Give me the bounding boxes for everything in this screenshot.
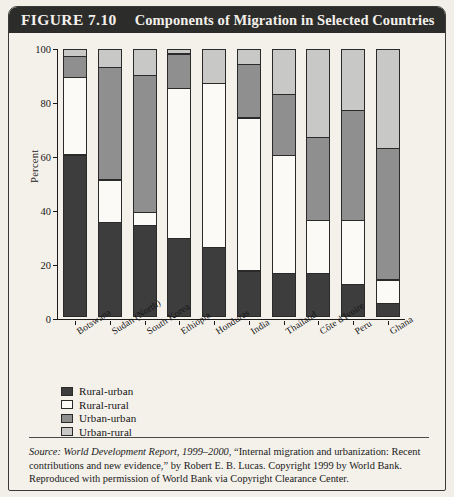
figure-banner: FIGURE 7.10 Components of Migration in S… — [9, 7, 446, 33]
x-tick-mark — [75, 321, 76, 325]
legend-swatch — [61, 414, 73, 423]
x-tick-mark — [179, 321, 180, 325]
bar-slot — [232, 49, 267, 319]
source-prefix: Source: — [29, 446, 61, 457]
x-label-slot: Ghana — [370, 321, 405, 381]
figure-page: FIGURE 7.10 Components of Migration in S… — [0, 0, 454, 497]
stacked-bar[interactable] — [167, 49, 191, 319]
x-label-slot: Botswana — [58, 321, 93, 381]
bar-segment — [237, 64, 261, 118]
bar-slot — [301, 49, 336, 319]
bar-segment — [63, 56, 87, 78]
bar-segment — [272, 273, 296, 316]
stacked-bar[interactable] — [341, 49, 365, 319]
bar-slot — [266, 49, 301, 319]
figure-frame: FIGURE 7.10 Components of Migration in S… — [8, 6, 446, 491]
legend-label: Urban-urban — [79, 412, 136, 424]
bar-segment — [306, 220, 330, 274]
y-tick-label: 80 — [29, 98, 51, 109]
bar-slot — [162, 49, 197, 319]
x-tick-mark — [284, 321, 285, 325]
chart-plot-area: Percent 020406080100 BotswanaSudan (Nort… — [9, 33, 446, 491]
bar-segment — [202, 49, 226, 84]
bar-slot — [58, 49, 93, 319]
y-tick-mark — [53, 319, 57, 320]
x-label-slot: South Korea — [127, 321, 162, 381]
bar-segment — [376, 49, 400, 149]
legend-item[interactable]: Urban-rural — [61, 426, 136, 438]
stacked-bar[interactable] — [202, 49, 226, 319]
legend-label: Rural-urban — [79, 385, 133, 397]
bar-segment — [202, 247, 226, 317]
bar-segment — [272, 94, 296, 156]
x-tick-mark — [249, 321, 250, 325]
bar-segment — [167, 88, 191, 239]
x-label-slot: Thailand — [266, 321, 301, 381]
x-label-slot: Honduras — [197, 321, 232, 381]
x-label-slot: Ethiopia — [162, 321, 197, 381]
stacked-bar[interactable] — [306, 49, 330, 319]
bar-segment — [341, 220, 365, 285]
bar-segment — [306, 137, 330, 221]
bar-segment — [376, 280, 400, 304]
bar-slot — [370, 49, 405, 319]
legend-swatch — [61, 400, 73, 409]
stacked-bar[interactable] — [237, 49, 261, 319]
legend-item[interactable]: Urban-urban — [61, 412, 136, 424]
stacked-bar[interactable] — [133, 49, 157, 319]
source-divider — [29, 437, 429, 438]
bar-segment — [63, 77, 87, 155]
x-tick-mark — [318, 321, 319, 325]
bar-segment — [376, 303, 400, 317]
x-tick-mark — [214, 321, 215, 325]
bar-slot — [93, 49, 128, 319]
legend-item[interactable]: Rural-urban — [61, 385, 136, 397]
x-tick-mark — [388, 321, 389, 325]
source-note: Source: World Development Report, 1999–2… — [29, 445, 435, 486]
y-tick-label: 20 — [29, 260, 51, 271]
stacked-bar[interactable] — [272, 49, 296, 319]
x-tick-mark — [145, 321, 146, 325]
bar-segment — [306, 49, 330, 138]
y-tick-label: 0 — [29, 314, 51, 325]
stacked-bar[interactable] — [98, 49, 122, 319]
source-publication: World Development Report, 1999–2000, — [64, 446, 232, 457]
x-tick-mark — [353, 321, 354, 325]
x-axis-labels: BotswanaSudan (North)South KoreaEthiopia… — [58, 321, 405, 381]
y-tick-mark — [53, 265, 57, 266]
y-tick-mark — [53, 49, 57, 50]
bar-segment — [237, 49, 261, 65]
bar-segment — [98, 222, 122, 317]
legend-swatch — [61, 427, 73, 436]
stacked-bar-group — [58, 49, 405, 319]
x-tick-mark — [110, 321, 111, 325]
figure-title: Components of Migration in Selected Coun… — [135, 12, 435, 29]
bar-slot — [336, 49, 371, 319]
y-axis-ticks: 020406080100 — [29, 33, 51, 491]
y-tick-mark — [53, 103, 57, 104]
legend-item[interactable]: Rural-rural — [61, 399, 136, 411]
y-tick-label: 40 — [29, 206, 51, 217]
x-label-slot: Peru — [336, 321, 371, 381]
bar-segment — [133, 212, 157, 226]
bar-segment — [202, 83, 226, 248]
bar-segment — [341, 110, 365, 221]
legend-label: Urban-rural — [79, 426, 132, 438]
bar-slot — [127, 49, 162, 319]
y-tick-mark — [53, 157, 57, 158]
x-label-slot: Côte d'Ivoire — [301, 321, 336, 381]
bar-segment — [272, 49, 296, 95]
y-tick-label: 100 — [29, 44, 51, 55]
bar-segment — [98, 67, 122, 180]
x-label-slot: Sudan (North) — [93, 321, 128, 381]
stacked-bar[interactable] — [63, 49, 87, 319]
bar-segment — [272, 155, 296, 274]
x-label-slot: India — [232, 321, 267, 381]
bar-segment — [167, 54, 191, 89]
bar-segment — [133, 49, 157, 76]
y-tick-label: 60 — [29, 152, 51, 163]
y-tick-mark — [53, 211, 57, 212]
bar-slot — [197, 49, 232, 319]
stacked-bar[interactable] — [376, 49, 400, 319]
bar-segment — [98, 49, 122, 68]
